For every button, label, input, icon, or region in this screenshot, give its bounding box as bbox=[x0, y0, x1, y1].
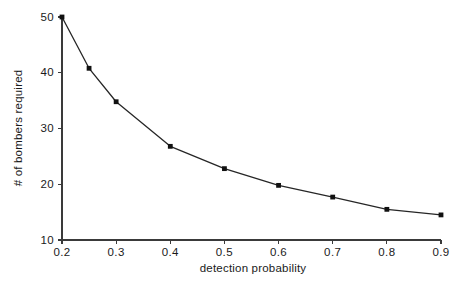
data-point-marker bbox=[276, 183, 281, 188]
data-point-marker bbox=[168, 144, 173, 149]
data-point-marker bbox=[384, 207, 389, 212]
data-point-marker bbox=[222, 166, 227, 171]
data-point-marker bbox=[330, 195, 335, 200]
x-tick-label: 0.9 bbox=[432, 246, 449, 258]
data-point-marker bbox=[60, 15, 65, 20]
y-tick-label: 20 bbox=[40, 178, 54, 190]
x-tick-label: 0.3 bbox=[108, 246, 125, 258]
data-point-marker bbox=[114, 99, 119, 104]
x-tick-label: 0.5 bbox=[216, 246, 233, 258]
x-tick-label: 0.2 bbox=[53, 246, 70, 258]
y-tick-label: 30 bbox=[40, 122, 54, 134]
chart-container: 10203040500.20.30.40.50.60.70.80.9 detec… bbox=[0, 0, 467, 281]
y-tick-label: 10 bbox=[40, 234, 54, 246]
y-tick-label: 50 bbox=[40, 11, 54, 23]
y-tick-label: 40 bbox=[40, 66, 54, 78]
chart-background bbox=[0, 0, 467, 281]
x-axis-title: detection probability bbox=[200, 262, 307, 274]
data-point-marker bbox=[439, 213, 444, 218]
x-tick-label: 0.4 bbox=[162, 246, 179, 258]
data-point-marker bbox=[87, 66, 92, 71]
x-tick-label: 0.6 bbox=[270, 246, 287, 258]
x-tick-label: 0.7 bbox=[324, 246, 341, 258]
y-axis-title: # of bombers required bbox=[12, 70, 24, 187]
x-tick-label: 0.8 bbox=[378, 246, 395, 258]
line-chart: 10203040500.20.30.40.50.60.70.80.9 detec… bbox=[0, 0, 467, 281]
